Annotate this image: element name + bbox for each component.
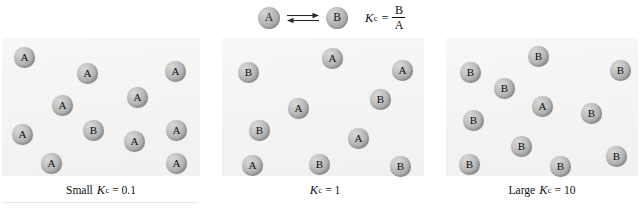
molecule-a: A (348, 128, 369, 149)
molecule-b: B (460, 62, 481, 83)
equation-molecule-a: A (258, 7, 280, 29)
molecule-a: A (165, 61, 186, 82)
caption-lead: Small (66, 184, 93, 196)
molecule-b: B (238, 62, 259, 83)
molecule-a: A (124, 131, 145, 152)
molecule-a: A (322, 48, 343, 69)
molecule-b: B (610, 60, 631, 81)
bottom-divider (2, 202, 198, 203)
equals-sign: = (381, 11, 388, 26)
molecule-a: A (166, 120, 187, 141)
caption-value: = 1 (325, 184, 340, 196)
molecule-a: A (77, 63, 98, 84)
molecule-b: B (83, 120, 104, 141)
molecule-a: A (166, 153, 187, 174)
caption-kc-symbol: K (97, 183, 105, 198)
molecule-b: B (494, 78, 515, 99)
molecule-panel-large-kc: BBBBABBBBBB (446, 38, 638, 176)
kc-denominator: A (393, 18, 406, 31)
kc-symbol: K (365, 11, 373, 26)
caption-kc-symbol: K (310, 183, 318, 198)
panel-caption-unit-kc: Kc = 1 (222, 181, 424, 199)
caption-kc-subscript: c (548, 185, 552, 195)
panel-caption-small-kc: Small Kc = 0.1 (2, 181, 200, 199)
caption-value: = 0.1 (112, 184, 136, 196)
molecule-panel-unit-kc: BAABABAABB (222, 38, 424, 176)
molecule-panel-small-kc: AAAAAABAAAA (2, 38, 200, 176)
molecule-b: B (459, 154, 480, 175)
molecule-a: A (288, 98, 309, 119)
molecule-b: B (528, 46, 549, 67)
molecule-a: A (14, 47, 35, 68)
molecule-b: B (550, 156, 571, 177)
caption-value: = 10 (555, 184, 576, 196)
equilibrium-equation: A B Kc = B A (258, 2, 405, 34)
caption-lead: Large (509, 184, 536, 196)
molecule-b: B (370, 89, 391, 110)
molecule-b: B (249, 120, 270, 141)
caption-kc-subscript: c (105, 185, 109, 195)
molecule-b: B (463, 110, 484, 131)
molecule-a: A (242, 155, 263, 176)
molecule-b: B (581, 103, 602, 124)
molecule-b: B (309, 154, 330, 175)
molecule-a: A (127, 87, 148, 108)
molecule-a: A (52, 95, 73, 116)
molecule-a: A (532, 96, 553, 117)
equilibrium-equation-row: A B Kc = B A (0, 0, 640, 36)
caption-kc-subscript: c (318, 185, 322, 195)
kc-subscript: c (374, 13, 378, 23)
equation-molecule-b: B (326, 7, 348, 29)
equilibrium-constant-expression: Kc = B A (365, 5, 405, 32)
equilibrium-double-arrow-icon (285, 7, 321, 29)
kc-numerator: B (393, 4, 405, 17)
molecule-a: A (392, 60, 413, 81)
panel-caption-large-kc: Large Kc = 10 (446, 181, 638, 199)
molecule-b: B (606, 146, 627, 167)
molecule-a: A (12, 124, 33, 145)
molecule-b: B (511, 136, 532, 157)
kc-fraction: B A (392, 4, 405, 31)
caption-kc-symbol: K (539, 183, 547, 198)
molecule-b: B (390, 156, 411, 177)
molecule-a: A (41, 153, 62, 174)
